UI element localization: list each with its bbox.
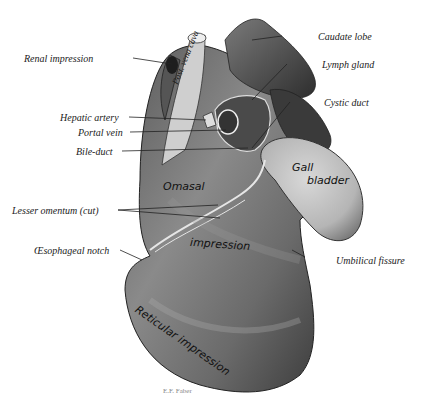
label-cystic-duct: Cystic duct (324, 97, 369, 108)
label-renal-impression: Renal impression (24, 53, 93, 64)
label-omasal: Omasal (163, 180, 205, 193)
label-bile-duct: Bile-duct (76, 146, 113, 157)
label-gall: Gall (292, 161, 313, 174)
label-bladder: bladder (307, 174, 349, 187)
label-caudate-lobe: Caudate lobe (318, 31, 372, 42)
artist-signature: E.F. Faber (163, 387, 192, 395)
label-hepatic-artery: Hepatic artery (60, 112, 119, 123)
label-lymph-gland: Lymph gland (322, 59, 374, 70)
label-umbilical-fissure: Umbilical fissure (336, 255, 405, 266)
anatomy-figure: Renal impression Caudate lobe Lymph glan… (0, 0, 427, 418)
label-oesophageal-notch: Œsophageal notch (34, 245, 109, 256)
label-lesser-omentum: Lesser omentum (cut) (12, 205, 99, 216)
label-portal-vein: Portal vein (78, 127, 123, 138)
